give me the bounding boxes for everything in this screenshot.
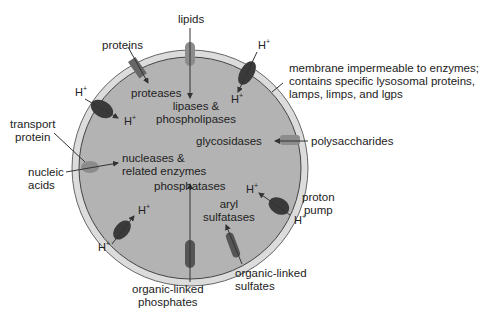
label-h-plus: H+	[246, 182, 258, 195]
polysaccharide-channel-icon	[280, 135, 300, 145]
label-h-plus: H+	[98, 240, 110, 253]
label-polysaccharides: polysaccharides	[311, 135, 393, 148]
label-h-plus: H+	[231, 92, 243, 105]
label-proteins: proteins	[102, 39, 143, 52]
label-phosphatases: phosphatases	[154, 180, 226, 193]
label-nucleases: nucleases & related enzymes	[122, 152, 206, 178]
label-organic-linked-phosphates: organic-linked phosphates	[132, 283, 204, 309]
label-organic-linked-sulfates: organic-linked sulfates	[235, 267, 307, 293]
label-h-plus: H+	[258, 38, 270, 51]
label-h-plus: H+	[75, 85, 87, 98]
label-aryl-sulfatases: aryl sulfatases	[203, 198, 255, 224]
label-lipids: lipids	[178, 13, 204, 26]
label-membrane-line3: lamps, limps, and lgps	[289, 88, 479, 101]
label-proteases: proteases	[131, 87, 182, 100]
lysosome-diagram: lipids proteins proteases lipases & phos…	[0, 0, 492, 316]
label-nucleic-line2: acids	[28, 179, 64, 192]
label-transport-protein: transport protein	[10, 118, 55, 144]
label-olp-line2: phosphates	[132, 296, 204, 309]
label-h-plus: H+	[124, 114, 136, 127]
label-lipases-line2: phospholipases	[156, 113, 236, 126]
label-lipases-line1: lipases &	[156, 100, 236, 113]
label-olp-line1: organic-linked	[132, 283, 204, 296]
label-h-plus: H+	[138, 203, 150, 216]
label-glycosidases: glycosidases	[196, 135, 262, 148]
label-proton-line1: proton	[302, 191, 335, 204]
label-ols-line1: organic-linked	[235, 267, 307, 280]
label-membrane-line1: membrane impermeable to enzymes;	[289, 62, 479, 75]
label-proton-line2: pump	[302, 204, 335, 217]
label-nucleases-line2: related enzymes	[122, 165, 206, 178]
label-nucleases-line1: nucleases &	[122, 152, 206, 165]
label-aryl-line2: sulfatases	[203, 211, 255, 224]
label-h-plus: H+	[294, 213, 306, 226]
label-membrane: membrane impermeable to enzymes; contain…	[289, 62, 479, 101]
label-membrane-line2: contains specific lysosomal proteins,	[289, 75, 479, 88]
label-transport-line1: transport	[10, 118, 55, 131]
label-nucleic-acids: nucleic acids	[28, 166, 64, 192]
label-lipases: lipases & phospholipases	[156, 100, 236, 126]
label-aryl-line1: aryl	[203, 198, 255, 211]
label-proton-pump: proton pump	[302, 191, 335, 217]
label-transport-line2: protein	[10, 131, 55, 144]
label-ols-line2: sulfates	[235, 280, 307, 293]
label-nucleic-line1: nucleic	[28, 166, 64, 179]
